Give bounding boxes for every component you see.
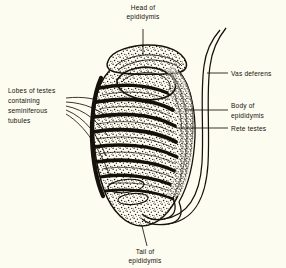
label-lobes-line1: Lobes of testes: [8, 87, 56, 94]
label-vas-deferens: Vas deferens: [231, 70, 272, 77]
label-rete-testes: Rete testes: [231, 125, 267, 132]
label-body-line2: epididymis: [231, 112, 264, 120]
label-lobes-line3: seminiferous: [8, 107, 48, 114]
label-vas-line1: Vas deferens: [231, 70, 272, 77]
anatomy-diagram: Head of epididymis Lobes of testes conta…: [0, 0, 286, 268]
figure-canvas: Head of epididymis Lobes of testes conta…: [0, 0, 286, 268]
label-tail-line2: epididymis: [129, 257, 162, 265]
label-head-line2: epididymis: [127, 13, 160, 21]
label-lobes-line4: tubules: [8, 117, 31, 124]
label-lobes-line2: containing: [8, 97, 40, 105]
label-rete-line1: Rete testes: [231, 125, 267, 132]
label-tail-line1: Tail of: [136, 248, 154, 255]
label-head-line1: Head of: [131, 4, 155, 11]
label-head-of-epididymis: Head of epididymis: [127, 4, 160, 21]
label-body-line1: Body of: [231, 102, 255, 110]
